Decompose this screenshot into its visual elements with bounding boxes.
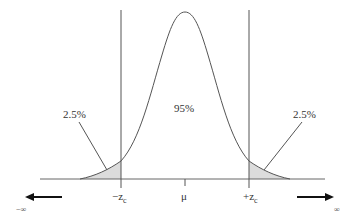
- left-tail-shade: [80, 161, 121, 179]
- left-tail-leader: [79, 122, 107, 170]
- left-critical-label: −zc: [112, 190, 127, 202]
- normal-distribution-diagram: 95% 2.5% 2.5% −zc μ +zc −∞ ∞: [0, 0, 358, 221]
- left-critical-text: −z: [112, 190, 123, 202]
- right-critical-subscript: c: [254, 196, 258, 205]
- pos-infinity-label: ∞: [334, 205, 340, 214]
- right-tail-label: 2.5%: [293, 108, 316, 120]
- right-critical-text: +z: [243, 190, 254, 202]
- right-tail-leader: [264, 122, 302, 170]
- left-critical-subscript: c: [123, 196, 127, 205]
- neg-infinity-label: −∞: [16, 205, 26, 214]
- bell-curve: [80, 12, 290, 179]
- right-critical-label: +zc: [243, 190, 258, 202]
- center-area-label: 95%: [174, 102, 194, 114]
- mean-label: μ: [181, 190, 187, 202]
- left-tail-label: 2.5%: [63, 108, 86, 120]
- left-arrow-icon: [25, 193, 62, 201]
- right-arrow-icon: [297, 193, 334, 201]
